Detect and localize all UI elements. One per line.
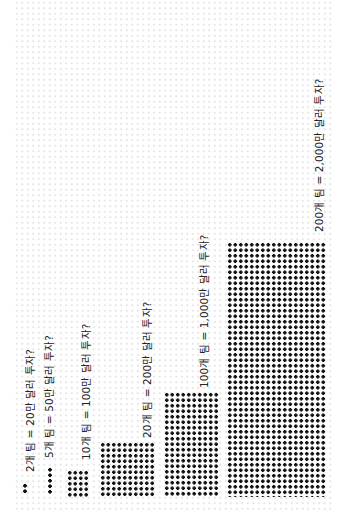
label-10-teams: 10개 팀 = 100만 달러 투자? <box>80 324 92 460</box>
label-100-teams: 100개 팀 = 1,000만 달러 투자? <box>198 235 210 388</box>
dot-block-10-teams <box>67 470 89 498</box>
label-2-teams: 2개 팀 = 20만 달러 투자? <box>24 349 36 472</box>
label-20-teams: 20개 팀 = 200만 달러 투자? <box>141 302 153 438</box>
dot-block-200-teams <box>227 242 326 497</box>
label-5-teams: 5개 팀 = 50만 달러 투자? <box>43 335 55 458</box>
dot-block-20-teams <box>100 442 155 497</box>
dot-block-5-teams <box>47 467 53 495</box>
dot-block-2-teams <box>22 483 28 494</box>
dot-block-100-teams <box>164 392 219 497</box>
label-200-teams: 200개 팀 = 2,000만 달러 투자? <box>313 79 325 232</box>
